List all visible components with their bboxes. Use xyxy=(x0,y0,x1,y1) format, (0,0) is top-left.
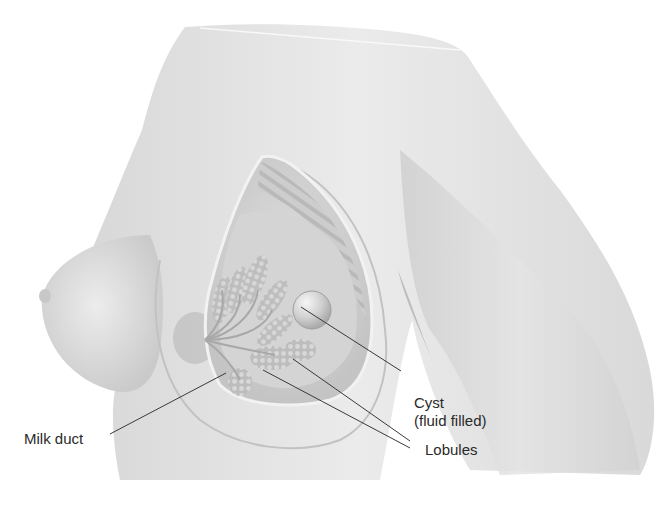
cyst-label-line2: (fluid filled) xyxy=(414,412,487,430)
illustration-svg xyxy=(0,0,672,516)
cyst-label: Cyst (fluid filled) xyxy=(414,394,487,430)
left-nipple xyxy=(39,289,51,303)
anatomy-illustration: Cyst (fluid filled) Lobules Milk duct xyxy=(0,0,672,516)
left-breast xyxy=(42,235,163,392)
cyst xyxy=(293,291,331,329)
cyst-label-line1: Cyst xyxy=(414,394,487,412)
lobules-label: Lobules xyxy=(425,441,478,459)
milk-duct-label: Milk duct xyxy=(24,430,83,448)
